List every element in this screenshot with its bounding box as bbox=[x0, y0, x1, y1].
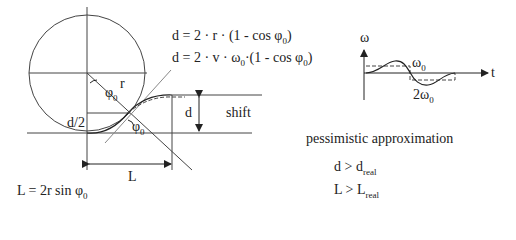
r-label: r bbox=[120, 77, 125, 91]
t-axis-label: t bbox=[491, 66, 495, 80]
omega-axis-label: ω bbox=[360, 31, 369, 45]
phi0-top-label: φ0 bbox=[105, 86, 118, 103]
shift-label: shift bbox=[226, 106, 251, 120]
notes-title: pessimistic approximation bbox=[306, 132, 453, 146]
d-half-label: d/2 bbox=[67, 116, 85, 130]
note-L: L > Lreal bbox=[334, 183, 379, 200]
note-d: d > dreal bbox=[334, 160, 376, 177]
omega0-label: ω0 bbox=[412, 56, 426, 73]
phi0-bottom-label: φ0 bbox=[132, 120, 145, 137]
two-omega0-label: 2ω0 bbox=[413, 88, 434, 105]
formula-L: L = 2r sin φ0 bbox=[17, 184, 88, 201]
shift-curve bbox=[87, 95, 172, 133]
formula-d-r: d = 2 · r · (1 - cos φ0) bbox=[172, 29, 292, 46]
d-label: d bbox=[185, 106, 192, 120]
formula-d-v: d = 2 · v · ω0·(1 - cos φ0) bbox=[172, 51, 312, 68]
L-label: L bbox=[128, 170, 137, 184]
